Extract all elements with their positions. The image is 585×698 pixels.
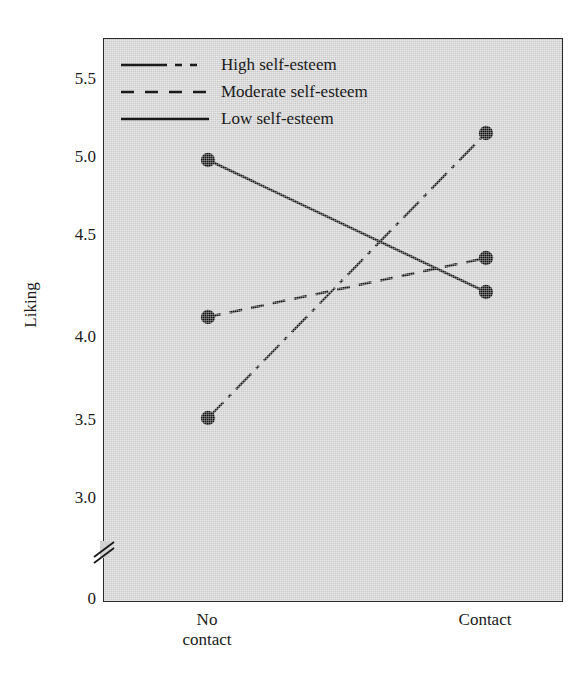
plot-area: High self-esteem Moderate self-esteem Lo… [103, 38, 563, 602]
y-tick-label: 4.5 [34, 226, 96, 243]
legend-key-solid-icon [119, 110, 211, 128]
y-tick-label: 4.0 [34, 328, 96, 345]
series-line-low-self-esteem [208, 160, 486, 292]
x-tick-label-no-contact: No contact [127, 610, 287, 649]
y-tick-label: 3.5 [34, 411, 96, 428]
y-tick-label: 0 [34, 590, 96, 607]
data-point-marker [201, 310, 215, 324]
legend-label-low-self-esteem: Low self-esteem [211, 110, 334, 127]
legend-item-low-self-esteem: Low self-esteem [119, 105, 429, 132]
y-tick-label: 5.0 [34, 148, 96, 165]
data-point-marker [201, 153, 215, 167]
data-point-marker [479, 251, 493, 265]
legend-label-moderate-self-esteem: Moderate self-esteem [211, 83, 368, 100]
y-tick-label: 5.5 [34, 70, 96, 87]
y-axis-title: Liking [21, 255, 41, 355]
data-point-marker [479, 126, 493, 140]
data-point-marker [201, 411, 215, 425]
legend-label-high-self-esteem: High self-esteem [211, 56, 337, 73]
figure: High self-esteem Moderate self-esteem Lo… [0, 0, 585, 698]
y-tick-label: 3.0 [34, 489, 96, 506]
legend-item-high-self-esteem: High self-esteem [119, 51, 429, 78]
legend-key-dash-dot-icon [119, 56, 211, 74]
legend-key-dashed-icon [119, 83, 211, 101]
x-tick-label-contact: Contact [405, 610, 565, 630]
legend: High self-esteem Moderate self-esteem Lo… [119, 51, 429, 132]
series-line-moderate-self-esteem [208, 258, 486, 317]
series-line-high-self-esteem [208, 133, 486, 418]
data-point-marker [479, 285, 493, 299]
legend-item-moderate-self-esteem: Moderate self-esteem [119, 78, 429, 105]
